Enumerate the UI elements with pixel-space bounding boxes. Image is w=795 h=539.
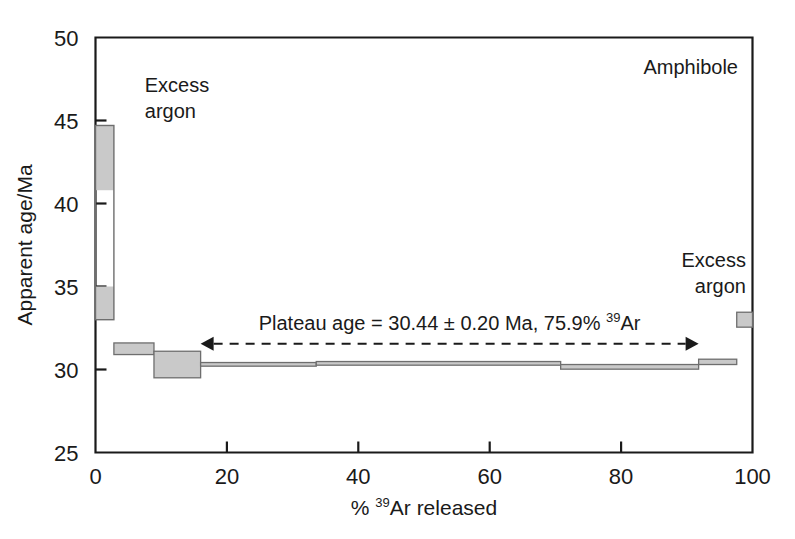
step-box-rect (737, 312, 753, 327)
step-box (114, 343, 154, 355)
plateau-annotation-text: Plateau age = 30.44 ± 0.20 Ma, 75.9% 39A… (259, 310, 641, 334)
step-box (154, 351, 201, 378)
axis-ticks (96, 121, 622, 453)
x-tick-label-40: 40 (346, 464, 370, 489)
x-tick-label-20: 20 (215, 464, 239, 489)
excess-argon-left-line-2: argon (145, 100, 196, 122)
step-box-rect (154, 351, 201, 378)
x-tick-label-80: 80 (609, 464, 633, 489)
step-box-fill-top (96, 125, 114, 190)
x-axis-title-post: Ar released (390, 496, 497, 519)
plateau-arrow-head-left (201, 337, 214, 351)
excess-argon-left: Excessargon (145, 74, 209, 122)
plateau-arrow: Plateau age = 30.44 ± 0.20 Ma, 75.9% 39A… (201, 310, 699, 351)
step-box (96, 125, 114, 319)
x-axis-title-text: % 39Ar released (351, 495, 497, 519)
y-tick-label-35: 35 (54, 275, 78, 300)
step-box (699, 359, 737, 364)
step-box (316, 362, 560, 366)
x-tick-label-60: 60 (477, 464, 501, 489)
y-tick-label-40: 40 (54, 192, 78, 217)
y-tick-label-45: 45 (54, 109, 78, 134)
step-box-rect (316, 362, 560, 366)
x-axis-title: % 39Ar released (351, 495, 497, 519)
plateau-text-superscript: 39 (606, 310, 620, 325)
y-tick-label-50: 50 (54, 26, 78, 51)
excess-argon-right-line-1: Excess (681, 249, 745, 271)
sample-label: Amphibole (643, 56, 738, 78)
age-spectrum-steps (96, 125, 753, 377)
step-box (561, 365, 699, 370)
step-box (201, 363, 317, 367)
step-box-rect (561, 365, 699, 370)
step-box-fill-bottom (96, 287, 114, 320)
x-axis-title-pre: % (351, 496, 376, 519)
y-tick-label-25: 25 (54, 441, 78, 466)
excess-argon-right-line-2: argon (695, 275, 746, 297)
plateau-text-pre: Plateau age = 30.44 ± 0.20 Ma, 75.9% (259, 312, 606, 334)
y-tick-label-30: 30 (54, 358, 78, 383)
step-box (737, 312, 753, 327)
plateau-text-post: Ar (621, 312, 641, 334)
step-box-rect (201, 363, 317, 367)
step-box-rect (114, 343, 154, 355)
x-tick-label-0: 0 (89, 464, 101, 489)
y-axis-title: Apparent age/Ma (13, 164, 36, 325)
plot-canvas: 253035404550020406080100 Plateau age = 3… (0, 0, 795, 539)
x-axis-title-superscript: 39 (375, 495, 389, 510)
excess-argon-left-line-1: Excess (145, 74, 209, 96)
y-axis-title-text: Apparent age/Ma (13, 164, 36, 325)
plateau-arrow-head-right (686, 337, 699, 351)
age-spectrum-figure: 253035404550020406080100 Plateau age = 3… (0, 0, 795, 539)
x-tick-label-100: 100 (734, 464, 771, 489)
chart-annotations: ExcessargonExcessargon (145, 74, 746, 296)
step-box-rect (699, 359, 737, 364)
excess-argon-right: Excessargon (681, 249, 745, 297)
